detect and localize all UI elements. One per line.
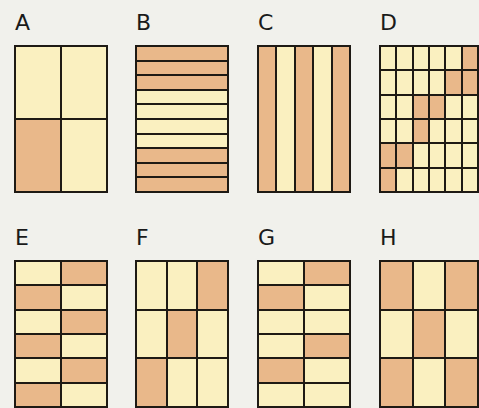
panel-c [257,45,351,193]
unshaded-cell [414,47,428,69]
shaded-cell [381,144,395,166]
unshaded-cell [397,96,411,118]
unshaded-cell [277,47,293,191]
shaded-cell [168,311,197,358]
unshaded-cell [397,120,411,142]
unshaded-cell [16,47,60,118]
shaded-cell [62,311,106,333]
unshaded-cell [137,105,227,118]
shaded-cell [414,311,445,358]
unshaded-cell [463,96,477,118]
unshaded-cell [414,359,445,406]
unshaded-cell [137,311,166,358]
unshaded-cell [463,120,477,142]
unshaded-cell [430,120,444,142]
unshaded-cell [446,169,460,191]
unshaded-cell [168,359,197,406]
unshaded-cell [305,286,349,308]
panel-a [14,45,108,193]
panel-d [379,45,479,193]
unshaded-cell [62,335,106,357]
unshaded-cell [16,311,60,333]
shaded-cell [62,262,106,284]
unshaded-cell [305,384,349,406]
panel-e [14,260,108,408]
shaded-cell [305,335,349,357]
unshaded-cell [137,262,166,309]
shaded-cell [430,96,444,118]
shaded-cell [137,47,227,60]
unshaded-cell [414,169,428,191]
shaded-cell [16,120,60,191]
unshaded-cell [430,169,444,191]
shaded-cell [259,359,303,381]
unshaded-cell [168,262,197,309]
unshaded-cell [62,47,106,118]
shaded-cell [381,359,412,406]
shaded-cell [333,47,349,191]
unshaded-cell [305,311,349,333]
panel-label-h: H [380,227,397,249]
panel-h [379,260,479,408]
panel-label-c: C [258,12,273,34]
unshaded-cell [446,311,477,358]
unshaded-cell [137,91,227,104]
unshaded-cell [430,47,444,69]
unshaded-cell [62,384,106,406]
shaded-cell [137,178,227,191]
unshaded-cell [414,262,445,309]
shaded-cell [16,384,60,406]
unshaded-cell [381,96,395,118]
panel-label-d: D [380,12,397,34]
panel-label-f: F [136,227,149,249]
shaded-cell [137,359,166,406]
unshaded-cell [414,144,428,166]
shaded-cell [446,71,460,93]
unshaded-cell [305,359,349,381]
unshaded-cell [446,144,460,166]
unshaded-cell [259,335,303,357]
shaded-cell [305,262,349,284]
shaded-cell [446,359,477,406]
panel-label-a: A [15,12,30,34]
unshaded-cell [62,286,106,308]
unshaded-cell [446,96,460,118]
shaded-cell [296,47,312,191]
unshaded-cell [397,169,411,191]
unshaded-cell [430,71,444,93]
unshaded-cell [198,359,227,406]
unshaded-cell [414,71,428,93]
shaded-cell [381,169,395,191]
shaded-cell [16,335,60,357]
unshaded-cell [16,359,60,381]
unshaded-cell [381,311,412,358]
unshaded-cell [463,169,477,191]
unshaded-cell [381,71,395,93]
unshaded-cell [463,144,477,166]
unshaded-cell [137,120,227,133]
shaded-cell [259,47,275,191]
shaded-cell [62,359,106,381]
shaded-cell [463,71,477,93]
unshaded-cell [381,47,395,69]
unshaded-cell [259,311,303,333]
unshaded-cell [62,120,106,191]
shaded-cell [463,47,477,69]
panel-label-b: B [136,12,151,34]
unshaded-cell [314,47,330,191]
shaded-cell [446,262,477,309]
unshaded-cell [397,47,411,69]
shaded-cell [137,76,227,89]
unshaded-cell [259,384,303,406]
shaded-cell [397,144,411,166]
unshaded-cell [137,135,227,148]
shaded-cell [137,149,227,162]
shaded-cell [414,120,428,142]
shaded-cell [137,62,227,75]
shaded-cell [198,262,227,309]
unshaded-cell [446,120,460,142]
panel-b [135,45,229,193]
panel-f [135,260,229,408]
shaded-cell [381,262,412,309]
unshaded-cell [16,262,60,284]
